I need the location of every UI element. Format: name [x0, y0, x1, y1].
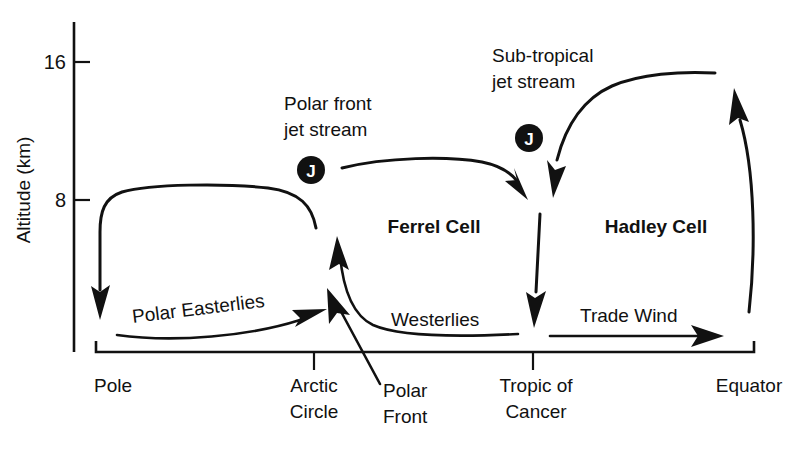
ferrel-cell-upper-arc [342, 158, 518, 182]
sub-tropical-jet-label-line1: Sub-tropical [492, 45, 593, 66]
hadley-cell-label: Hadley Cell [605, 216, 707, 237]
polar-front-pointer-line [338, 306, 380, 384]
subsidence-line [536, 214, 540, 292]
hadley-cell-upper-arrow-head [547, 160, 566, 198]
sub-tropical-jet-stream: Sub-tropical jet stream J [491, 45, 593, 152]
equator-rising-arrow [729, 88, 753, 312]
polar-front-jet-label-line2: jet stream [283, 119, 367, 140]
y-axis-tick-label-8: 8 [55, 189, 66, 211]
x-axis-label-tropic-of-cancer-line1: Tropic of [499, 375, 573, 396]
atmospheric-circulation-diagram: 16 8 Altitude (km) Pole Arctic Circle Tr… [0, 0, 799, 460]
sub-tropical-jet-badge-letter: J [524, 130, 533, 149]
y-axis-tick-label-16: 16 [44, 51, 66, 73]
polar-front-jet-stream: Polar front jet stream J [283, 93, 372, 184]
trade-wind-label: Trade Wind [580, 305, 678, 326]
subsidence-arrow-head [526, 291, 546, 328]
westerlies-arrow: Westerlies [329, 236, 518, 336]
y-axis-title: Altitude (km) [13, 137, 34, 244]
polar-cell-arc [100, 185, 316, 290]
polar-front-jet-badge-letter: J [306, 162, 315, 181]
y-axis: 16 8 Altitude (km) [13, 22, 90, 352]
x-axis-label-equator: Equator [716, 375, 783, 396]
x-axis: Pole Arctic Circle Tropic of Cancer Equa… [94, 341, 783, 422]
subsidence-arrow-tropic [526, 214, 546, 328]
sub-tropical-jet-label-line2: jet stream [491, 71, 575, 92]
x-axis-baseline [96, 341, 754, 352]
x-axis-label-arctic-circle-line2: Circle [290, 401, 339, 422]
trade-wind-arrow: Trade Wind [550, 305, 724, 347]
equator-rising-line [740, 120, 753, 312]
hadley-cell-upper-arc [557, 72, 715, 160]
westerlies-arrow-head [329, 236, 349, 270]
x-axis-label-arctic-circle-line1: Arctic [290, 375, 338, 396]
polar-easterlies-label: Polar Easterlies [131, 290, 266, 327]
circulation-figure: 16 8 Altitude (km) Pole Arctic Circle Tr… [0, 0, 799, 460]
x-axis-label-tropic-of-cancer-line2: Cancer [505, 401, 567, 422]
polar-front-label-line1: Polar [383, 380, 428, 401]
westerlies-label: Westerlies [391, 309, 479, 330]
polar-easterlies-arrow-head [292, 309, 327, 327]
x-axis-label-pole: Pole [94, 375, 132, 396]
polar-front-jet-label-line1: Polar front [284, 93, 372, 114]
polar-easterlies-arrow: Polar Easterlies [117, 290, 327, 338]
ferrel-cell-upper-arrow [342, 158, 528, 200]
ferrel-cell-label: Ferrel Cell [388, 216, 481, 237]
polar-front-label-line2: Front [383, 406, 428, 427]
